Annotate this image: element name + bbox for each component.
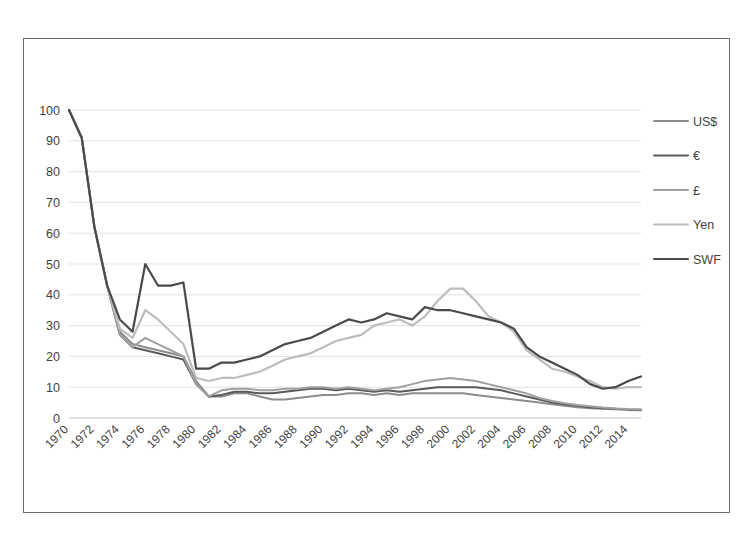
x-axis-tick-label: 1984 (220, 422, 249, 451)
x-axis-tick-label: 1978 (144, 422, 173, 451)
legend-label-0: US$ (693, 115, 717, 129)
x-axis-tick-label: 1986 (246, 422, 275, 451)
line-chart: 0102030405060708090100197019721974197619… (24, 39, 729, 512)
x-axis-tick-label: 2008 (525, 422, 554, 451)
x-axis-tick-label: 2014 (602, 422, 631, 451)
y-axis-tick-label: 60 (46, 227, 60, 241)
y-axis-tick-label: 30 (46, 319, 60, 333)
series-line-SWF (69, 110, 641, 389)
legend-label-4: SWF (693, 253, 721, 267)
chart-frame: 0102030405060708090100197019721974197619… (23, 38, 730, 513)
x-axis-tick-label: 1980 (169, 422, 198, 451)
x-axis-tick-label: 1976 (119, 422, 148, 451)
x-axis-tick-label: 2000 (424, 422, 453, 451)
x-axis-tick-label: 1982 (195, 422, 224, 451)
y-axis-tick-label: 10 (46, 381, 60, 395)
x-axis-tick-label: 1972 (68, 422, 97, 451)
x-axis-tick-label: 2004 (475, 422, 504, 451)
y-axis-tick-label: 20 (46, 350, 60, 364)
x-axis-tick-label: 1992 (322, 422, 351, 451)
y-axis-tick-label: 90 (46, 134, 60, 148)
x-axis-tick-label: 1988 (271, 422, 300, 451)
y-axis-tick-label: 100 (39, 104, 60, 118)
x-axis-tick-label: 1998 (398, 422, 427, 451)
x-axis-tick-label: 1970 (42, 422, 71, 451)
x-axis-tick-label: 2006 (500, 422, 529, 451)
y-axis-tick-label: 70 (46, 196, 60, 210)
x-axis-tick-label: 2012 (576, 422, 605, 451)
legend-label-2: £ (693, 184, 700, 198)
series-line-Yen (69, 110, 641, 389)
x-axis-tick-label: 2010 (551, 422, 580, 451)
legend-label-3: Yen (693, 218, 714, 232)
x-axis-tick-label: 1994 (347, 422, 376, 451)
y-axis-tick-label: 50 (46, 258, 60, 272)
y-axis-tick-label: 80 (46, 165, 60, 179)
x-axis-tick-label: 1974 (93, 422, 122, 451)
x-axis-tick-label: 1990 (297, 422, 326, 451)
x-axis-tick-label: 1996 (373, 422, 402, 451)
legend-label-1: € (693, 149, 700, 163)
x-axis-tick-label: 2002 (449, 422, 478, 451)
y-axis-tick-label: 40 (46, 288, 60, 302)
